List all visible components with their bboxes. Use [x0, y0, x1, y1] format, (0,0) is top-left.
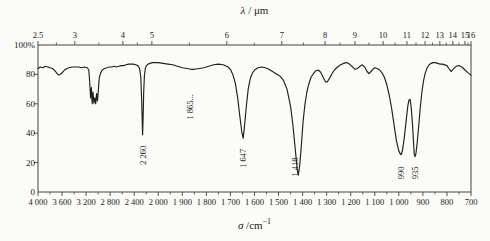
bottom-axis-title-exponent: −1: [263, 217, 272, 226]
spectrum-chart: 4 0003 6003 2002 8002 4002 0001 9001 800…: [0, 0, 490, 241]
x-axis-tick-label: 800: [441, 197, 454, 207]
top-axis-tick-label: 2.5: [33, 30, 44, 40]
y-axis-tick-label: 20: [26, 158, 36, 168]
top-axis-tick-label: 4: [121, 30, 126, 40]
top-axis-tick-label: 8: [323, 30, 327, 40]
ir-spectrum-figure: λ / μm 4 0003 6003 2002 8002 4002 0001 9…: [0, 0, 490, 241]
x-axis-tick-label: 1 600: [245, 197, 264, 207]
x-axis-tick-label: 1 700: [221, 197, 240, 207]
y-axis-tick-label: 40: [26, 128, 36, 138]
top-axis-tick-label: 7: [280, 30, 284, 40]
x-axis-tick-label: 1 100: [365, 197, 384, 207]
x-axis-tick-label: 1 300: [317, 197, 336, 207]
top-axis-tick-label: 13: [436, 30, 445, 40]
x-axis-tick-label: 1 500: [269, 197, 288, 207]
top-axis-tick-label: 12: [421, 30, 430, 40]
top-axis-tick-label: 16: [467, 30, 476, 40]
x-axis-tick-label: 3 200: [77, 197, 96, 207]
spectrum-curve: [38, 63, 471, 176]
top-axis-tick-label: 5: [150, 30, 154, 40]
peak-annotation: 2 260: [138, 146, 148, 165]
top-axis-tick-label: 6: [225, 30, 229, 40]
peak-annotation: 1 647: [238, 149, 248, 168]
peak-annotation: 990: [396, 167, 406, 180]
x-axis-tick-label: 1 900: [173, 197, 192, 207]
top-axis-tick-label: 11: [403, 30, 411, 40]
x-axis-tick-label: 1 400: [293, 197, 312, 207]
top-axis-tick-label: 10: [379, 30, 388, 40]
bottom-axis-title: σ /cm−1: [38, 216, 471, 231]
x-axis-tick-label: 3 600: [52, 197, 71, 207]
top-axis-tick-label: 3: [73, 30, 77, 40]
x-axis-tick-label: 1 200: [341, 197, 360, 207]
y-axis-tick-label: 0: [31, 187, 36, 197]
top-axis-tick-label: 14: [449, 30, 458, 40]
top-axis-tick-label: 9: [353, 30, 357, 40]
x-axis-tick-label: 1 000: [389, 197, 408, 207]
y-axis-tick-label: 60: [26, 99, 36, 109]
peak-annotation: 1 865...: [185, 94, 195, 120]
x-axis-tick-label: 2 400: [125, 197, 144, 207]
y-axis-tick-label: 80: [26, 69, 36, 79]
x-axis-tick-label: 700: [465, 197, 478, 207]
x-axis-tick-label: 2 800: [101, 197, 120, 207]
x-axis-tick-label: 1 800: [197, 197, 216, 207]
y-axis-tick-label: 100%: [14, 40, 36, 50]
x-axis-tick-label: 2 000: [149, 197, 168, 207]
x-axis-tick-label: 900: [417, 197, 430, 207]
x-axis-tick-label: 4 000: [28, 197, 47, 207]
peak-annotation: 1 418: [290, 157, 300, 176]
bottom-axis-title-unit: /cm: [243, 219, 262, 231]
peak-annotation: 935: [410, 167, 420, 180]
